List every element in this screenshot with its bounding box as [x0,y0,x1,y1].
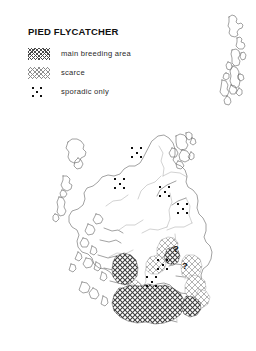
sporadic-cluster [146,276,159,289]
sporadic-cluster [159,186,172,199]
query-mark: ? [173,244,179,254]
map-title: PIED FLYCATCHER [28,26,168,37]
legend-item-sporadic: sporadic only [28,84,168,99]
sporadic-cluster [131,147,144,160]
legend-swatch-scarce [28,67,50,79]
sporadic-cluster [177,203,190,216]
query-mark: ? [182,261,188,271]
legend-label-sporadic-only: sporadic only [61,87,109,96]
legend-item-main: main breeding area [28,46,168,61]
sporadic-cluster [157,259,170,272]
legend-item-scarce: scarce [28,65,168,80]
sporadic-cluster [114,178,127,191]
map-legend: PIED FLYCATCHER main breeding area scarc… [28,26,168,103]
legend-label-scarce: scarce [61,68,85,77]
legend-label-main-breeding-area: main breeding area [61,49,131,58]
legend-swatch-sporadic-only [28,86,50,98]
legend-swatch-main-breeding-area [28,48,50,60]
